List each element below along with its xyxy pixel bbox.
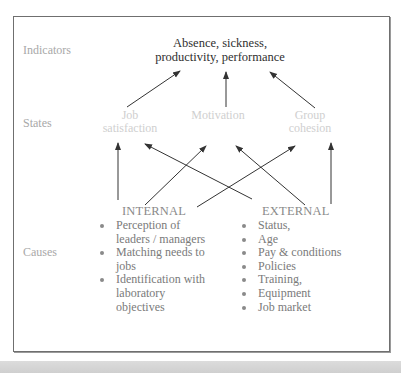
arrow-external-to-job [145,144,252,199]
arrow-job-to-indicators [127,71,180,107]
bottom-gray-bar [0,361,401,373]
arrow-internal-to-motivation [145,146,206,205]
arrows-layer [0,0,401,373]
arrow-group-to-indicators [270,72,315,108]
